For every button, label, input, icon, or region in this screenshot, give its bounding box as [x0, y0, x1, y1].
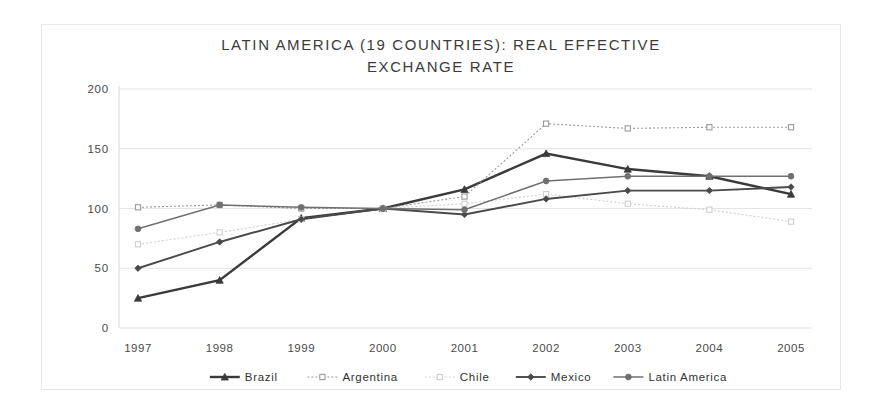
x-axis-tick-label: 2004 — [696, 342, 724, 354]
x-axis-tick-label: 1997 — [124, 342, 152, 354]
chart-container: LATIN AMERICA (19 COUNTRIES): REAL EFFEC… — [41, 24, 841, 390]
data-point-marker — [706, 173, 712, 179]
data-point-marker — [437, 374, 442, 379]
series-line — [138, 154, 791, 299]
data-point-marker — [462, 201, 467, 206]
data-point-marker — [788, 184, 794, 190]
data-point-marker — [135, 242, 140, 247]
legend-item-brazil[interactable]: Brazil — [210, 371, 278, 383]
data-point-marker — [380, 206, 386, 212]
data-point-marker — [298, 204, 304, 210]
series-argentina — [135, 121, 793, 211]
legend-label: Brazil — [245, 371, 278, 383]
data-point-marker — [625, 201, 630, 206]
data-point-marker — [320, 374, 325, 379]
x-axis-tick-label: 2001 — [451, 342, 479, 354]
x-axis-tick-label: 2002 — [532, 342, 560, 354]
data-point-marker — [217, 202, 223, 208]
data-point-marker — [217, 230, 222, 235]
legend-item-argentina[interactable]: Argentina — [307, 371, 398, 383]
data-point-marker — [135, 226, 141, 232]
data-point-marker — [707, 125, 712, 130]
data-point-marker — [135, 205, 140, 210]
data-point-marker — [626, 374, 632, 380]
data-point-marker — [528, 374, 534, 380]
data-point-marker — [788, 173, 794, 179]
legend-label: Mexico — [551, 371, 592, 383]
x-axis-tick-label: 1999 — [287, 342, 315, 354]
data-point-marker — [135, 265, 141, 271]
data-point-marker — [788, 219, 793, 224]
line-chart-plot: 0501001502001997199819992000200120022003… — [42, 25, 842, 391]
x-axis-tick-label: 2005 — [777, 342, 805, 354]
legend-label: Latin America — [648, 371, 727, 383]
x-axis-tick-label: 1998 — [206, 342, 234, 354]
legend-label: Argentina — [342, 371, 398, 383]
data-point-marker — [216, 239, 222, 245]
data-point-marker — [625, 173, 631, 179]
data-point-marker — [543, 178, 549, 184]
legend-item-chile[interactable]: Chile — [425, 371, 490, 383]
y-axis-tick-label: 50 — [95, 262, 109, 274]
chart-legend: BrazilArgentinaChileMexicoLatin America — [210, 371, 727, 383]
data-point-marker — [462, 207, 468, 213]
data-point-marker — [788, 125, 793, 130]
data-point-marker — [706, 187, 712, 193]
legend-item-latin-america[interactable]: Latin America — [613, 371, 727, 383]
data-point-marker — [707, 207, 712, 212]
data-point-marker — [462, 194, 467, 199]
x-axis-tick-label: 2003 — [614, 342, 642, 354]
y-axis-tick-label: 200 — [87, 83, 109, 95]
data-point-marker — [625, 126, 630, 131]
x-axis-tick-label: 2000 — [369, 342, 397, 354]
data-point-marker — [625, 187, 631, 193]
legend-item-mexico[interactable]: Mexico — [516, 371, 592, 383]
data-point-marker — [544, 121, 549, 126]
legend-label: Chile — [460, 371, 490, 383]
y-axis-tick-label: 150 — [87, 143, 109, 155]
y-axis-tick-label: 0 — [102, 322, 109, 334]
y-axis-tick-label: 100 — [87, 203, 109, 215]
series-brazil — [134, 150, 794, 301]
